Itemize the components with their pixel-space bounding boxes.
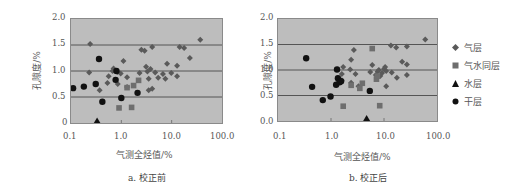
data-point-diamond	[97, 87, 103, 93]
y-tick-a-2.0: 2.0	[52, 12, 66, 22]
data-point-circle	[81, 83, 87, 89]
data-point-square	[360, 80, 366, 86]
data-point-circle	[93, 81, 99, 87]
legend-label-water: 水层	[464, 77, 482, 90]
plot-area-a	[70, 18, 223, 124]
data-point-diamond	[394, 75, 400, 81]
data-point-square	[377, 103, 383, 109]
x-tick-b-10.0: 10.0	[376, 131, 395, 141]
triangle-marker-icon	[452, 80, 459, 87]
x-tick-b-0.1: 0.1	[273, 131, 287, 141]
legend-item-dry: 干层	[452, 92, 500, 110]
y-tick-b-2.0: 2.0	[260, 12, 274, 22]
x-tick-a-100.0: 100.0	[210, 131, 234, 141]
data-point-diamond	[383, 83, 389, 89]
data-point-square	[357, 86, 363, 92]
legend-item-water: 水层	[452, 74, 500, 92]
x-tick-b-1.0: 1.0	[325, 131, 339, 141]
legend-label-dry: 干层	[464, 95, 482, 108]
x-tick-a-0.1: 0.1	[63, 131, 77, 141]
data-point-diamond	[181, 45, 187, 51]
x-tick-b-100.0: 100.0	[426, 131, 450, 141]
data-point-square	[348, 83, 354, 89]
data-point-circle	[99, 98, 105, 104]
data-point-diamond	[388, 43, 394, 49]
data-point-diamond	[174, 63, 180, 69]
data-point-circle	[118, 95, 124, 101]
legend-label-gas-water: 气水同层	[464, 59, 500, 72]
data-point-diamond	[353, 71, 359, 77]
x-axis-label-a: 气测全烃值/%	[116, 148, 173, 161]
legend-label-gas: 气层	[464, 41, 482, 54]
data-point-circle	[327, 93, 333, 99]
panel-a: 孔隙度/% 2.0 1.5 1.0 0.5 0 0.1 1.0 10.0 100…	[0, 0, 257, 194]
data-point-diamond	[174, 73, 180, 79]
data-point-diamond	[155, 75, 161, 81]
y-tick-a-1.0: 1.0	[52, 65, 66, 75]
data-point-square	[375, 73, 381, 79]
y-tick-b-1.5: 1.5	[260, 38, 274, 48]
data-point-diamond	[87, 41, 93, 47]
data-point-diamond	[348, 57, 354, 63]
data-point-circle	[71, 85, 76, 91]
data-point-diamond	[404, 72, 410, 78]
legend-item-gas: 气层	[452, 38, 500, 56]
data-point-diamond	[106, 73, 112, 79]
data-point-circle	[134, 90, 140, 96]
caption-b: b. 校正后	[349, 171, 387, 184]
data-point-diamond	[340, 64, 346, 70]
legend-item-gas-water: 气水同层	[452, 56, 500, 74]
y-tick-a-0.5: 0.5	[52, 91, 66, 101]
data-point-square	[136, 78, 142, 84]
data-point-diamond	[351, 47, 357, 53]
data-point-diamond	[404, 61, 410, 67]
circle-marker-icon	[452, 98, 459, 105]
caption-a: a. 校正前	[128, 171, 166, 184]
data-point-square	[340, 103, 346, 109]
data-point-circle	[338, 78, 344, 84]
y-tick-a-1.5: 1.5	[52, 38, 66, 48]
data-point-square	[129, 105, 135, 111]
data-point-circle	[112, 77, 118, 83]
y-tick-b-1.0: 1.0	[260, 64, 274, 74]
data-point-diamond	[393, 45, 399, 51]
data-point-circle	[113, 68, 119, 74]
data-point-circle	[367, 88, 373, 94]
data-point-diamond	[164, 61, 170, 67]
data-point-circle	[309, 84, 315, 90]
legend: 气层 气水同层 水层 干层	[452, 38, 500, 110]
data-point-diamond	[124, 74, 130, 80]
data-point-circle	[334, 66, 340, 72]
data-point-square	[124, 85, 130, 91]
x-axis-label-b: 气测全烃值/%	[334, 150, 391, 163]
diamond-marker-icon	[452, 44, 459, 51]
data-point-diamond	[399, 59, 405, 65]
data-point-triangle	[94, 117, 101, 123]
y-tick-b-0.5: 0.5	[260, 90, 274, 100]
square-marker-icon	[452, 62, 459, 69]
x-tick-a-1.0: 1.0	[114, 131, 128, 141]
data-point-diamond	[369, 62, 375, 68]
data-point-circle	[96, 56, 102, 62]
data-point-diamond	[146, 76, 152, 82]
scatter-svg	[278, 19, 437, 121]
data-point-diamond	[104, 80, 110, 86]
data-point-square	[131, 83, 137, 89]
data-point-diamond	[422, 36, 428, 42]
data-point-square	[369, 46, 375, 52]
y-tick-a-0: 0	[62, 117, 67, 127]
scatter-svg	[71, 19, 222, 123]
data-point-diamond	[197, 37, 203, 43]
data-point-triangle	[363, 115, 370, 121]
data-point-diamond	[187, 55, 193, 61]
data-point-diamond	[152, 70, 158, 76]
data-point-diamond	[120, 58, 126, 64]
x-tick-a-10.0: 10.0	[162, 131, 181, 141]
data-point-circle	[303, 55, 309, 61]
data-point-diamond	[86, 70, 92, 76]
data-point-square	[116, 105, 122, 111]
y-axis-label-a: 孔隙度/%	[30, 41, 43, 101]
data-point-circle	[320, 97, 326, 103]
plot-area-b	[277, 18, 438, 122]
data-point-diamond	[347, 66, 353, 72]
